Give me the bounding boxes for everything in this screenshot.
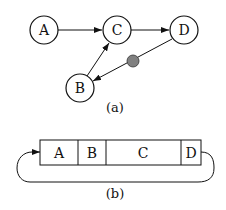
- cell-b: B: [87, 145, 97, 161]
- cell-d: D: [185, 145, 196, 161]
- node-label: D: [178, 22, 189, 38]
- node-b: B: [66, 74, 94, 102]
- gray-dot-marker: [127, 55, 139, 67]
- caption-b: (b): [106, 186, 124, 201]
- node-a: A: [30, 16, 58, 44]
- array-box: [40, 140, 201, 165]
- diagram: A C D B (a) A B C D (b): [0, 0, 226, 210]
- cell-a: A: [53, 145, 65, 161]
- node-label: B: [75, 80, 85, 96]
- edge-b-c: [87, 43, 109, 76]
- figure-a: A C D B (a): [30, 16, 198, 115]
- node-c: C: [103, 16, 131, 44]
- figure-b: A B C D (b): [17, 140, 214, 201]
- caption-a: (a): [106, 100, 124, 115]
- cell-c: C: [138, 145, 149, 161]
- node-label: A: [38, 22, 50, 38]
- node-d: D: [170, 16, 198, 44]
- node-label: C: [112, 22, 123, 38]
